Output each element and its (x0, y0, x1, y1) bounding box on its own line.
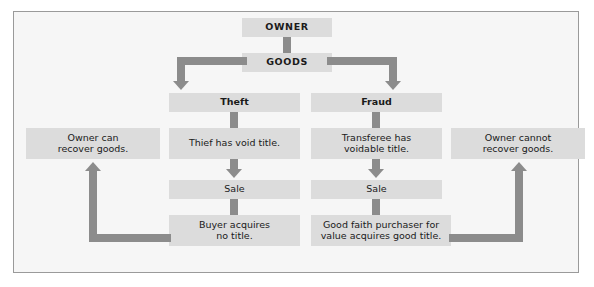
edge-gfp-ownercannot-horizontal (449, 234, 523, 242)
edge-goods-fraud-horizontal (327, 57, 397, 65)
edge-buyer-ownercan-horizontal (89, 234, 171, 242)
node-transferee-line2: voidable title. (344, 144, 409, 155)
node-sale-right: Sale (311, 180, 442, 199)
node-owner-cannot-line2: recover goods. (483, 144, 554, 155)
edge-gfp-ownercannot-vertical (515, 171, 523, 242)
node-gfp-line2: value acquires good title. (321, 231, 442, 242)
edge-gfp-ownercannot-arrowhead (511, 162, 527, 171)
edge-saleleft-buyer (230, 199, 238, 215)
edge-theft-thieftitle (230, 112, 238, 128)
node-owner: OWNER (242, 18, 332, 37)
edge-goods-theft-vertical (177, 57, 185, 81)
diagram-canvas: OWNER GOODS Theft Fraud Owner can reco (0, 0, 594, 287)
node-gfp-line1: Good faith purchaser for (323, 220, 439, 231)
diagram-frame: OWNER GOODS Theft Fraud Owner can reco (13, 11, 579, 273)
node-owner-cannot-line1: Owner cannot (485, 133, 552, 144)
node-goods: GOODS (242, 53, 332, 72)
node-buyer-line1: Buyer acquires (199, 220, 270, 231)
node-sale-left-label: Sale (224, 184, 244, 195)
edge-buyer-ownercan-arrowhead (85, 162, 101, 171)
node-theft: Theft (169, 93, 300, 112)
node-owner-label: OWNER (265, 22, 308, 33)
edge-saleright-gfp (372, 199, 380, 215)
node-buyer-line2: no title. (216, 231, 252, 242)
edge-fraud-transfereetitle (372, 112, 380, 128)
node-theft-label: Theft (220, 97, 248, 108)
edge-goods-fraud-vertical (389, 57, 397, 81)
edge-goods-fraud-arrowhead (385, 81, 401, 90)
node-transferee-voidable-title: Transferee has voidable title. (311, 128, 442, 159)
node-owner-can-recover: Owner can recover goods. (26, 128, 160, 159)
node-thief-void-title-label: Thief has void title. (189, 138, 280, 149)
node-owner-can-line2: recover goods. (58, 144, 129, 155)
node-fraud-label: Fraud (361, 97, 392, 108)
node-goods-label: GOODS (266, 57, 308, 68)
edge-buyer-ownercan-vertical (89, 171, 97, 242)
node-thief-void-title: Thief has void title. (169, 128, 300, 159)
edge-thieftitle-sale-shaft (230, 159, 238, 169)
edge-transfereetitle-sale-arrowhead (368, 169, 384, 178)
node-owner-can-line1: Owner can (67, 133, 118, 144)
edge-transfereetitle-sale-shaft (372, 159, 380, 169)
edge-thieftitle-sale-arrowhead (226, 169, 242, 178)
edge-owner-goods (283, 37, 291, 53)
node-fraud: Fraud (311, 93, 442, 112)
node-buyer-no-title: Buyer acquires no title. (169, 215, 300, 246)
node-transferee-line1: Transferee has (342, 133, 412, 144)
edge-goods-theft-arrowhead (173, 81, 189, 90)
node-good-faith-purchaser: Good faith purchaser for value acquires … (311, 215, 451, 246)
edge-goods-theft-horizontal (177, 57, 247, 65)
node-owner-cannot-recover: Owner cannot recover goods. (451, 128, 585, 159)
node-sale-right-label: Sale (366, 184, 386, 195)
node-sale-left: Sale (169, 180, 300, 199)
